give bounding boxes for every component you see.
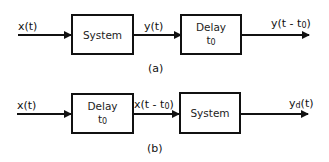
mid-label-a: y(t)	[144, 21, 163, 32]
output-label-b: yd(t)	[289, 98, 314, 109]
output-label-a: y(t - t0)	[271, 18, 311, 29]
delay-block-a-label: Delay t0	[181, 21, 241, 47]
delay-block-b-label: Delay t0	[72, 100, 133, 126]
delay-block-b-param: t0	[98, 113, 107, 125]
caption-b: (b)	[147, 143, 163, 154]
mid-label-b: x(t - t0)	[134, 99, 174, 110]
system-block-b-label: System	[180, 107, 240, 120]
delay-block-b-title: Delay	[87, 100, 117, 112]
delay-block-a-param: t0	[206, 34, 215, 46]
input-label-b: x(t)	[17, 100, 36, 111]
delay-block-a-title: Delay	[196, 21, 226, 33]
system-block-a-label: System	[72, 29, 133, 42]
diagram-a	[18, 15, 309, 54]
input-label-a: x(t)	[18, 21, 37, 32]
caption-a: (a)	[148, 63, 163, 74]
